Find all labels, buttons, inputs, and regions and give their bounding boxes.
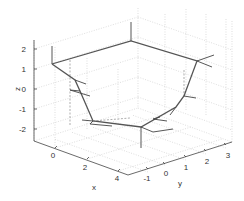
z-tick-2: 2 — [22, 45, 27, 54]
z-axis-label: z — [13, 87, 22, 91]
x-tick-4: 4 — [115, 174, 120, 183]
y-tick-2: 2 — [205, 157, 210, 166]
frame-segments — [52, 22, 214, 148]
y-tick-3: 3 — [226, 151, 231, 160]
z-tick-neg2: -2 — [19, 125, 27, 134]
x-tick-labels: 0 2 4 — [51, 151, 120, 183]
z-tick-1: 1 — [22, 65, 27, 74]
y-tick-0: 0 — [164, 169, 169, 178]
x-axis-label: x — [92, 183, 96, 192]
frame-segment — [197, 55, 214, 61]
frame-segment — [82, 120, 93, 121]
data-series-path — [52, 41, 197, 127]
x-tick-0: 0 — [51, 151, 56, 160]
y-axis-line — [128, 142, 232, 175]
z-tick-neg1: -1 — [19, 105, 27, 114]
frame-segment — [141, 127, 173, 132]
grid-lines — [34, 8, 232, 172]
x-tick-2: 2 — [83, 163, 88, 172]
z-tick-0: 0 — [22, 85, 27, 94]
y-axis-label: y — [178, 179, 182, 188]
frame-segment — [153, 117, 167, 121]
y-tick-neg1: -1 — [143, 174, 151, 183]
x-axis-line — [34, 141, 128, 175]
series-line — [52, 41, 197, 127]
y-tick-1: 1 — [184, 163, 189, 172]
3d-plot: 2 1 0 -1 -2 z 0 2 4 x -1 0 1 2 3 y — [0, 0, 244, 201]
y-tick-labels: -1 0 1 2 3 — [143, 151, 230, 183]
